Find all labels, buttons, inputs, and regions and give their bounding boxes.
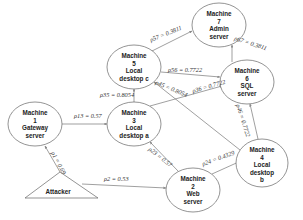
label-p67: ρ67 = 0.3811 [233, 34, 268, 51]
svg-text:2: 2 [191, 183, 195, 190]
node-machine-1: Machine 1 Gateway server [8, 102, 62, 146]
svg-text:Machine: Machine [249, 146, 275, 153]
node-machine-3: Machine 3 Local desktop a [107, 102, 161, 146]
label-p35: ρ35 = 0.8054 [99, 91, 134, 98]
label-p13: ρ13 = 0.57 [73, 112, 103, 119]
svg-text:Local: Local [254, 161, 271, 168]
svg-text:4: 4 [260, 154, 264, 161]
svg-text:server: server [210, 33, 229, 40]
svg-text:Web: Web [186, 190, 199, 197]
svg-text:Machine: Machine [22, 109, 48, 116]
svg-text:server: server [26, 132, 45, 139]
svg-text:Local: Local [126, 124, 143, 131]
node-machine-5: Machine 5 Local desktop c [107, 45, 161, 89]
svg-text:Machine: Machine [234, 67, 260, 74]
svg-text:Machine: Machine [121, 109, 147, 116]
svg-text:6: 6 [245, 75, 249, 82]
svg-text:b: b [260, 176, 264, 183]
label-p46: ρ46 = 0.7722 [235, 102, 253, 138]
svg-text:5: 5 [132, 60, 136, 67]
label-p23: ρ23 = 0.57 [147, 145, 175, 169]
svg-text:Local: Local [126, 67, 143, 74]
node-machine-6: Machine 6 SQL server [220, 60, 274, 104]
svg-text:Machine: Machine [206, 10, 232, 17]
svg-text:Attacker: Attacker [45, 188, 71, 195]
svg-text:Machine: Machine [121, 52, 147, 59]
attack-graph-diagram: Machine 7 Admin server Machine 5 Local d… [0, 0, 303, 220]
label-p1: ρ1 = 0.69 [50, 149, 69, 176]
svg-text:Admin: Admin [209, 25, 229, 32]
svg-text:server: server [184, 198, 203, 205]
svg-text:7: 7 [217, 18, 221, 25]
label-p56: ρ56 = 0.7722 [167, 66, 203, 73]
node-attacker: Attacker [25, 172, 98, 198]
label-p57: ρ57 = 0.3811 [148, 24, 183, 43]
label-p2: ρ2 = 0.53 [103, 175, 129, 182]
svg-text:1: 1 [33, 117, 37, 124]
svg-text:desktop c: desktop c [119, 75, 149, 83]
svg-text:Machine: Machine [180, 175, 206, 182]
label-p24: ρ24 = 0.4329 [200, 148, 236, 167]
svg-text:server: server [238, 90, 257, 97]
svg-text:3: 3 [132, 117, 136, 124]
node-machine-4: Machine 4 Local desktop b [236, 139, 288, 187]
edge-attacker-2 [82, 184, 166, 188]
svg-text:desktop a: desktop a [119, 132, 149, 140]
node-machine-2: Machine 2 Web server [166, 168, 220, 212]
